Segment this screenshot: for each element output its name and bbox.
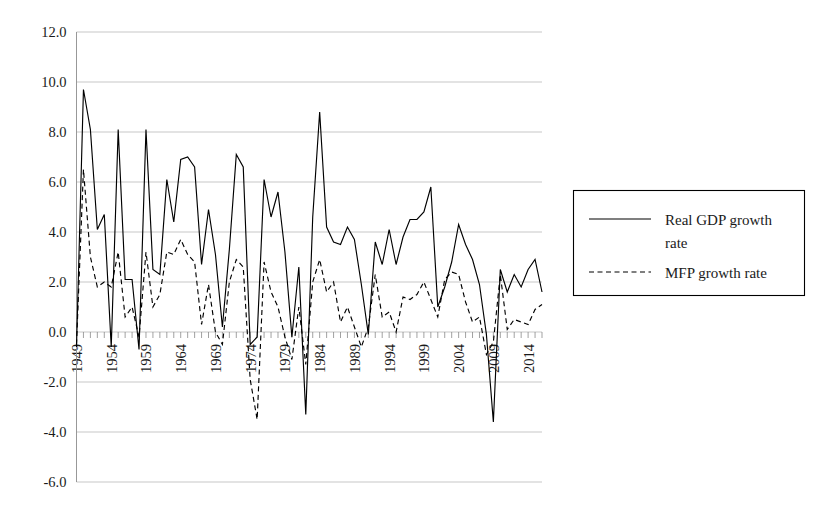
x-axis-tick-label: 1949: [69, 344, 85, 373]
x-axis-tick-label: 1964: [173, 343, 189, 373]
x-axis-tick-label: 1969: [208, 344, 224, 373]
legend-label-real-gdp-line2: rate: [665, 235, 688, 251]
chart-figure: 12.010.08.06.04.02.00.0-2.0-4.0-6.0 1949…: [0, 0, 828, 515]
x-axis-tick-label: 1999: [416, 344, 432, 373]
x-axis-tick-label: 1954: [104, 343, 120, 373]
x-axis-tick-label: 1994: [382, 343, 398, 373]
y-axis-tick-label: 12.0: [41, 24, 66, 40]
y-axis-tick-label: 0.0: [48, 324, 66, 340]
legend-label-mfp: MFP growth rate: [665, 265, 767, 281]
x-axis-tick-marks: [77, 332, 543, 338]
y-axis-tick-label: -6.0: [44, 474, 67, 490]
legend: Real GDP growth rate MFP growth rate: [574, 191, 805, 296]
y-axis-tick-labels: 12.010.08.06.04.02.00.0-2.0-4.0-6.0: [41, 24, 66, 490]
x-axis-tick-label: 1974: [243, 343, 259, 373]
x-axis-tick-label: 2004: [451, 343, 467, 373]
y-axis-tick-label: 10.0: [41, 74, 66, 90]
line-chart: 12.010.08.06.04.02.00.0-2.0-4.0-6.0 1949…: [0, 0, 828, 515]
y-axis-tick-label: 6.0: [48, 174, 66, 190]
y-axis-tick-label: 8.0: [48, 124, 66, 140]
y-axis-tick-label: 2.0: [48, 274, 66, 290]
y-axis-tick-label: -4.0: [44, 424, 67, 440]
y-axis-tick-label: 4.0: [48, 224, 66, 240]
x-axis-tick-label: 1984: [312, 343, 328, 373]
y-axis-tick-label: -2.0: [44, 374, 67, 390]
x-axis-tick-label: 1989: [347, 344, 363, 373]
legend-label-real-gdp-line1: Real GDP growth: [665, 212, 772, 228]
x-axis-tick-label: 1959: [138, 344, 154, 373]
x-axis-tick-label: 2014: [521, 343, 537, 373]
